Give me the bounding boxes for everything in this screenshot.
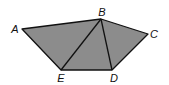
pentagon-shape bbox=[22, 19, 148, 70]
vertex-label-b: B bbox=[98, 6, 105, 18]
vertex-label-e: E bbox=[57, 72, 65, 84]
vertex-label-a: A bbox=[10, 23, 18, 35]
pentagon-diagram: A B C D E bbox=[0, 0, 169, 85]
vertex-label-c: C bbox=[150, 28, 158, 40]
vertex-label-d: D bbox=[110, 72, 118, 84]
